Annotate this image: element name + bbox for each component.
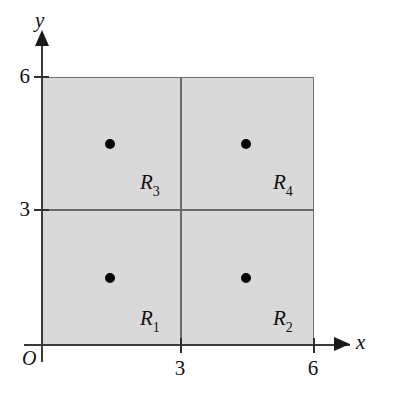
x-tick-mark-3 (180, 338, 182, 353)
y-axis-label: y (35, 10, 44, 31)
y-tick-mark-3 (34, 209, 49, 211)
region-label-r3-subscript: 3 (153, 184, 160, 199)
region-label-r1: R1 (140, 308, 160, 333)
region-label-r3: R3 (140, 172, 160, 197)
region-label-r1-letter: R (140, 306, 153, 330)
region-label-r4: R4 (273, 172, 293, 197)
region-label-r2-letter: R (273, 306, 286, 330)
region-label-r2-subscript: 2 (286, 320, 293, 335)
region-label-r3-letter: R (140, 170, 153, 194)
y-tick-label-3: 3 (6, 199, 30, 220)
x-axis-label: x (356, 332, 365, 353)
x-tick-mark-6 (313, 338, 315, 353)
coordinate-plane-figure: y x O 6 3 3 6 R1 R2 R3 R4 (0, 0, 394, 401)
sample-point-dot (105, 273, 115, 283)
sample-point-dot (241, 139, 251, 149)
y-tick-mark-6 (34, 76, 49, 78)
grid-line-vertical-x3 (180, 77, 182, 345)
origin-label: O (22, 348, 36, 368)
x-axis-line (24, 344, 350, 346)
region-label-r1-subscript: 1 (153, 320, 160, 335)
y-axis-arrow-icon (35, 30, 49, 46)
grid-line-horizontal-y3 (42, 209, 314, 211)
y-tick-label-6: 6 (6, 66, 30, 87)
x-axis-arrow-icon (334, 337, 350, 351)
x-tick-label-3: 3 (168, 358, 192, 379)
x-tick-label-6: 6 (301, 358, 325, 379)
region-label-r4-letter: R (273, 170, 286, 194)
shaded-square-region (42, 77, 314, 345)
y-axis-line (41, 44, 43, 362)
region-label-r4-subscript: 4 (286, 184, 293, 199)
region-label-r2: R2 (273, 308, 293, 333)
sample-point-dot (105, 139, 115, 149)
sample-point-dot (241, 273, 251, 283)
